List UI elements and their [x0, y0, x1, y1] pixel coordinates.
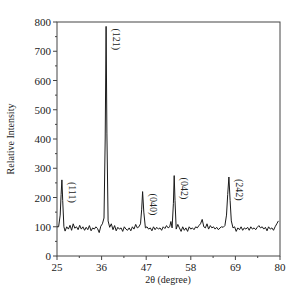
x-tick-label: 47: [141, 261, 153, 273]
peak-label: (111): [66, 182, 78, 203]
peak-annotations: (111)(121)(040)(042)(242): [66, 28, 245, 215]
plot-frame: [57, 22, 280, 256]
x-tick-label: 80: [275, 261, 287, 273]
x-tick-label: 25: [52, 261, 64, 273]
y-tick-label: 400: [35, 133, 52, 145]
y-tick-label: 600: [35, 75, 52, 87]
peak-label: (121): [110, 28, 122, 50]
peak-label: (040): [147, 194, 159, 216]
y-tick-label: 100: [35, 221, 52, 233]
y-tick-label: 500: [35, 104, 52, 116]
xrd-chart: 0100200300400500600700800 253647586980 (…: [0, 0, 297, 301]
data-series: [57, 26, 278, 232]
y-axis-title: Relative Intensity: [5, 104, 16, 175]
y-axis-ticks: 0100200300400500600700800: [35, 16, 58, 262]
xrd-line: [57, 26, 278, 232]
peak-label: (042): [178, 178, 190, 200]
x-tick-label: 69: [230, 261, 242, 273]
x-axis-ticks: 253647586980: [52, 256, 287, 273]
y-tick-label: 300: [35, 162, 52, 174]
x-axis-title: 2θ (degree): [145, 274, 191, 286]
y-tick-label: 200: [35, 192, 52, 204]
peak-label: (242): [233, 179, 245, 201]
x-tick-label: 58: [185, 261, 197, 273]
y-tick-label: 800: [35, 16, 52, 28]
y-tick-label: 700: [35, 45, 52, 57]
x-tick-label: 36: [96, 261, 108, 273]
